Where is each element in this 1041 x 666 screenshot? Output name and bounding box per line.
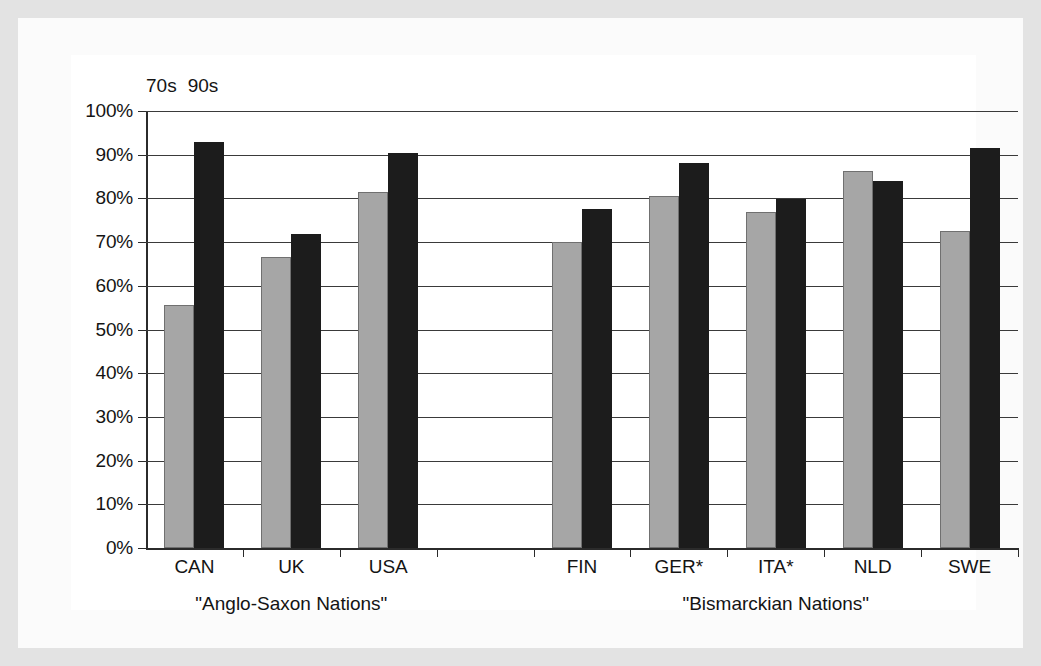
- legend-entry-70s: 70s: [146, 75, 177, 97]
- x-tick-mark: [630, 548, 631, 557]
- category-label-GER*: GER*: [655, 556, 704, 578]
- y-tick-mark: [138, 548, 146, 549]
- y-tick-label: 80%: [96, 187, 133, 209]
- y-tick-mark: [138, 504, 146, 505]
- group-label-anglo-saxon: "Anglo-Saxon Nations": [195, 593, 387, 615]
- y-tick-label: 50%: [96, 319, 133, 341]
- x-tick-mark: [824, 548, 825, 557]
- category-label-ITA*: ITA*: [758, 556, 794, 578]
- bar-ITA*-70s: [746, 212, 776, 548]
- bar-NLD-70s: [843, 171, 873, 548]
- bar-FIN-70s: [552, 242, 582, 548]
- y-tick-mark: [138, 286, 146, 287]
- y-tick-label: 100%: [85, 100, 133, 122]
- y-tick-mark: [138, 198, 146, 199]
- chart-canvas: 70s90s 100%90%80%70%60%50%40%30%20%10%0%…: [71, 55, 976, 610]
- x-tick-mark: [921, 548, 922, 557]
- y-tick-mark: [138, 373, 146, 374]
- y-tick-mark: [138, 155, 146, 156]
- bar-USA-70s: [358, 192, 388, 548]
- y-tick-mark: [138, 461, 146, 462]
- x-tick-mark: [1018, 548, 1019, 557]
- figure-outer-frame: 70s90s 100%90%80%70%60%50%40%30%20%10%0%…: [0, 0, 1041, 666]
- legend-entry-90s: 90s: [188, 75, 219, 97]
- bar-CAN-70s: [164, 305, 194, 548]
- x-tick-mark: [534, 548, 535, 557]
- y-tick-label: 40%: [96, 362, 133, 384]
- bar-UK-90s: [291, 234, 321, 548]
- y-tick-label: 10%: [96, 493, 133, 515]
- y-tick-label: 90%: [96, 144, 133, 166]
- bar-USA-90s: [388, 153, 418, 548]
- chart-legend: 70s90s: [146, 75, 218, 97]
- category-label-USA: USA: [369, 556, 408, 578]
- gridline: [146, 155, 1018, 156]
- bar-GER*-70s: [649, 196, 679, 548]
- bar-ITA*-90s: [776, 199, 806, 548]
- bar-CAN-90s: [194, 142, 224, 548]
- y-tick-label: 30%: [96, 406, 133, 428]
- y-tick-mark: [138, 330, 146, 331]
- y-tick-mark: [138, 417, 146, 418]
- bar-SWE-70s: [940, 231, 970, 548]
- x-tick-mark: [727, 548, 728, 557]
- category-label-CAN: CAN: [174, 556, 214, 578]
- y-tick-label: 70%: [96, 231, 133, 253]
- plot-area: 100%90%80%70%60%50%40%30%20%10%0% CANUKU…: [146, 111, 1018, 548]
- group-label-bismarckian: "Bismarckian Nations": [682, 593, 869, 615]
- bar-SWE-90s: [970, 148, 1000, 548]
- figure-inner-panel: 70s90s 100%90%80%70%60%50%40%30%20%10%0%…: [18, 18, 1023, 648]
- y-tick-mark: [138, 111, 146, 112]
- y-tick-label: 20%: [96, 450, 133, 472]
- bar-UK-70s: [261, 257, 291, 548]
- category-label-NLD: NLD: [854, 556, 892, 578]
- bar-GER*-90s: [679, 163, 709, 548]
- y-tick-mark: [138, 242, 146, 243]
- x-tick-mark: [437, 548, 438, 557]
- x-tick-mark: [340, 548, 341, 557]
- category-label-FIN: FIN: [567, 556, 598, 578]
- y-tick-label: 0%: [106, 537, 133, 559]
- category-label-UK: UK: [278, 556, 304, 578]
- x-tick-mark: [243, 548, 244, 557]
- x-axis-line: [146, 548, 1018, 550]
- category-label-SWE: SWE: [948, 556, 991, 578]
- gridline: [146, 111, 1018, 112]
- y-tick-label: 60%: [96, 275, 133, 297]
- bar-NLD-90s: [873, 181, 903, 548]
- bar-FIN-90s: [582, 209, 612, 548]
